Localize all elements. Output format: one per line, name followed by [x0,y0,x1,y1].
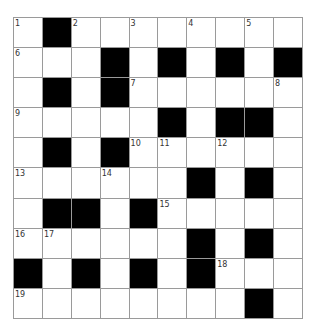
grid-cell[interactable] [43,259,72,289]
grid-cell[interactable] [130,229,159,259]
crossword-grid: 12345678910111213141516171819 [13,17,303,319]
grid-cell[interactable] [274,199,303,229]
grid-cell[interactable]: 19 [14,289,43,319]
grid-cell[interactable] [187,289,216,319]
grid-cell[interactable] [274,259,303,289]
block-cell [43,18,72,48]
grid-cell[interactable] [274,138,303,168]
block-cell [216,108,245,138]
grid-cell[interactable]: 11 [158,138,187,168]
grid-cell[interactable] [72,229,101,259]
grid-cell[interactable] [216,168,245,198]
grid-cell[interactable]: 13 [14,168,43,198]
grid-cell[interactable] [101,289,130,319]
grid-cell[interactable] [216,18,245,48]
grid-cell[interactable] [274,18,303,48]
grid-cell[interactable]: 17 [43,229,72,259]
grid-cell[interactable]: 12 [216,138,245,168]
block-cell [101,138,130,168]
grid-cell[interactable] [101,229,130,259]
grid-cell[interactable] [216,229,245,259]
grid-cell[interactable]: 10 [130,138,159,168]
grid-cell[interactable]: 16 [14,229,43,259]
grid-cell[interactable] [158,289,187,319]
grid-cell[interactable] [245,78,274,108]
grid-cell[interactable] [72,48,101,78]
block-cell [43,138,72,168]
block-cell [130,259,159,289]
grid-cell[interactable] [72,78,101,108]
grid-cell[interactable]: 6 [14,48,43,78]
grid-cell[interactable] [187,199,216,229]
puzzle-title [0,0,316,8]
grid-cell[interactable] [101,108,130,138]
grid-cell[interactable]: 8 [274,78,303,108]
grid-cell[interactable] [101,18,130,48]
block-cell [101,78,130,108]
grid-cell[interactable]: 4 [187,18,216,48]
grid-cell[interactable] [14,199,43,229]
grid-cell[interactable] [43,48,72,78]
block-cell [187,168,216,198]
block-cell [72,259,101,289]
grid-cell[interactable] [43,168,72,198]
grid-cell[interactable]: 3 [130,18,159,48]
grid-cell[interactable] [187,138,216,168]
grid-cell[interactable] [14,78,43,108]
clue-number: 12 [217,139,227,148]
grid-cell[interactable]: 5 [245,18,274,48]
grid-cell[interactable] [72,138,101,168]
grid-cell[interactable] [245,199,274,229]
grid-cell[interactable] [187,108,216,138]
clue-number: 13 [15,169,25,178]
grid-cell[interactable] [43,289,72,319]
block-cell [245,229,274,259]
grid-cell[interactable]: 15 [158,199,187,229]
grid-cell[interactable] [274,108,303,138]
grid-cell[interactable] [43,108,72,138]
clue-number: 14 [102,169,112,178]
grid-cell[interactable] [187,78,216,108]
grid-cell[interactable] [158,259,187,289]
grid-cell[interactable] [158,229,187,259]
grid-cell[interactable] [158,78,187,108]
grid-cell[interactable] [245,48,274,78]
grid-cell[interactable]: 14 [101,168,130,198]
grid-cell[interactable] [101,199,130,229]
grid-cell[interactable] [216,289,245,319]
clue-number: 8 [275,79,280,88]
grid-cell[interactable] [158,168,187,198]
clue-number: 11 [159,139,169,148]
grid-cell[interactable] [130,289,159,319]
grid-cell[interactable] [72,108,101,138]
grid-cell[interactable] [216,78,245,108]
grid-cell[interactable] [274,168,303,198]
grid-cell[interactable] [245,259,274,289]
grid-cell[interactable]: 1 [14,18,43,48]
clue-number: 1 [15,19,20,28]
grid-cell[interactable] [72,168,101,198]
clue-number: 9 [15,109,20,118]
block-cell [216,48,245,78]
clue-number: 7 [131,79,136,88]
grid-cell[interactable] [130,108,159,138]
block-cell [130,199,159,229]
grid-cell[interactable]: 9 [14,108,43,138]
block-cell [274,48,303,78]
grid-cell[interactable]: 2 [72,18,101,48]
grid-cell[interactable] [245,138,274,168]
clue-number: 2 [73,19,78,28]
grid-cell[interactable]: 7 [130,78,159,108]
grid-cell[interactable] [101,259,130,289]
grid-cell[interactable] [130,48,159,78]
block-cell [158,108,187,138]
grid-cell[interactable] [274,229,303,259]
grid-cell[interactable] [216,199,245,229]
grid-cell[interactable] [158,18,187,48]
grid-cell[interactable] [130,168,159,198]
grid-cell[interactable] [187,48,216,78]
grid-cell[interactable]: 18 [216,259,245,289]
grid-cell[interactable] [14,138,43,168]
grid-cell[interactable] [72,289,101,319]
grid-cell[interactable] [274,289,303,319]
